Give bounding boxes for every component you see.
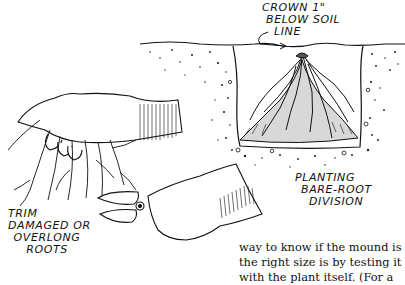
body-line-3: with the plant itself. (For a bbox=[239, 270, 405, 285]
right-hand bbox=[148, 164, 262, 240]
planting-label-line-3: DIVISION bbox=[295, 196, 385, 208]
pruning-shears-icon bbox=[98, 192, 144, 223]
soil-surface bbox=[140, 42, 405, 47]
crown bbox=[296, 53, 308, 58]
crown-label-line-3: LINE bbox=[262, 26, 340, 38]
soil-mound bbox=[240, 60, 358, 143]
trim-roots-label: TRIM DAMAGED OR OVERLONG ROOTS bbox=[8, 208, 86, 256]
trim-label-line-4: ROOTS bbox=[8, 244, 86, 256]
crown-depth-label: CROWN 1" BELOW SOIL LINE bbox=[262, 2, 340, 38]
planting-caption-label: PLANTING BARE-ROOT DIVISION bbox=[295, 172, 385, 208]
body-paragraph: way to know if the mound is the right si… bbox=[239, 240, 405, 285]
body-line-2: the right size is by testing it bbox=[239, 255, 405, 270]
body-line-1: way to know if the mound is bbox=[239, 240, 405, 255]
